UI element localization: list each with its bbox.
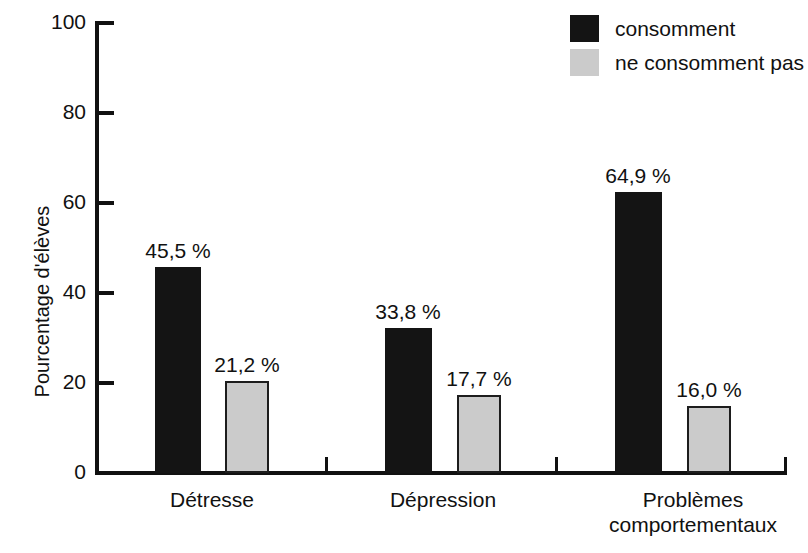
legend-swatch-light-icon <box>570 49 599 76</box>
bar-value-ne-consomment-pas-detresse: 21,2 % <box>207 354 287 375</box>
legend: consomment ne consomment pas <box>570 11 804 79</box>
y-tick-label-60: 60 <box>20 191 86 212</box>
legend-entry-consomment: consomment <box>570 11 804 45</box>
bar-ne-consomment-pas-detresse <box>225 381 269 473</box>
y-tick-label-20: 20 <box>20 371 86 392</box>
category-label-detresse: Détresse <box>132 487 292 512</box>
bar-consomment-depression <box>385 328 432 473</box>
bar-value-consomment-detresse: 45,5 % <box>138 240 218 261</box>
legend-entry-ne-consomment-pas: ne consomment pas <box>570 45 804 79</box>
legend-label-ne-consomment-pas: ne consomment pas <box>615 52 804 73</box>
x-axis-end-tick <box>784 457 787 475</box>
bar-value-ne-consomment-pas-problemes: 16,0 % <box>669 379 749 400</box>
category-label-depression: Dépression <box>363 487 523 512</box>
y-tick-100 <box>99 21 114 25</box>
x-tick-separator-2 <box>555 457 558 472</box>
y-tick-label-100: 100 <box>20 11 86 32</box>
bar-value-consomment-problemes: 64,9 % <box>598 165 678 186</box>
y-tick-label-80: 80 <box>20 101 86 122</box>
legend-label-consomment: consomment <box>615 18 735 39</box>
y-tick-label-0: 0 <box>20 461 86 482</box>
bar-chart: Pourcentage d'élèves 100 80 60 40 20 0 4… <box>0 0 808 553</box>
y-tick-20 <box>99 381 114 385</box>
legend-swatch-dark-icon <box>570 15 599 42</box>
y-axis-line <box>95 21 99 475</box>
x-tick-separator-1 <box>325 457 328 472</box>
y-tick-label-40: 40 <box>20 281 86 302</box>
y-tick-40 <box>99 291 114 295</box>
y-tick-60 <box>99 201 114 205</box>
bar-consomment-problemes <box>615 192 662 473</box>
bar-consomment-detresse <box>155 267 201 473</box>
bar-ne-consomment-pas-problemes <box>687 406 731 473</box>
bar-value-ne-consomment-pas-depression: 17,7 % <box>439 368 519 389</box>
bar-value-consomment-depression: 33,8 % <box>368 301 448 322</box>
category-label-problemes-comportementaux: Problèmes comportementaux <box>593 487 793 537</box>
bar-ne-consomment-pas-depression <box>457 395 501 473</box>
y-tick-80 <box>99 111 114 115</box>
